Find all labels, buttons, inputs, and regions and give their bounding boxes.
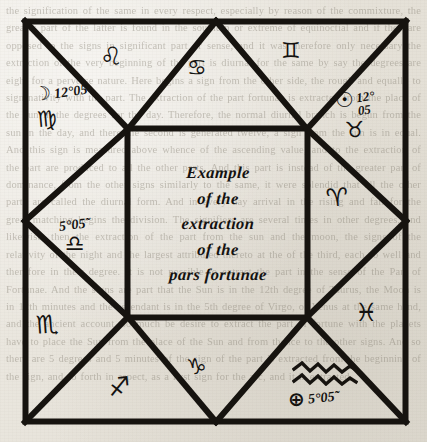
moon-sign-virgo: ♍ [36,105,88,131]
ascendant-degree-value: 5°05˜ [58,216,91,234]
sun-degree-row: ☉ 12° 05 [335,90,375,117]
center-inscription: Example of the extraction of the pars fo… [131,160,305,288]
moon-degree-value: 12°05 [53,83,88,102]
inscription-line-5: pars fortunae [130,262,305,288]
inscription-line-4: of the [130,237,305,263]
sign-label-capricorn: ♑ [186,355,209,380]
pars-fortunae-degree-row: ⊕ 5°05˜ [288,389,358,409]
moon-icon: ☽ [33,83,53,104]
inscription-line-3: extraction [130,211,305,237]
inscription-line-1: Example [130,160,305,186]
sign-label-aries: ♈ [325,184,350,211]
sign-label-gemini: ♊ [281,40,301,62]
sun-sign-taurus: ♉ [344,117,375,141]
sign-label-cancer: ♋ [187,57,207,79]
placement-moon-virgo: ☽ 12°05 ♍ [34,84,88,129]
sign-label-leo: ♌ [99,43,123,70]
pars-fortunae-icon: ⊕ [288,389,305,409]
ray-right-to-inner-top [307,129,406,221]
ascendant-sign-libra: ♎ [59,233,90,255]
aquarius-icon [292,361,358,386]
sign-label-pisces: ♓ [355,300,377,325]
aquarius-sign-wave [292,361,358,386]
moon-degree-row: ☽ 12°05 [34,84,88,103]
ray-left-to-inner-top [25,129,128,221]
pars-fortunae-degree-value: 5°05˜ [307,389,340,406]
placement-parsfortunae-aquarius: ⊕ 5°05˜ [292,361,358,409]
sign-label-scorpio: ♏ [35,311,59,338]
placement-ascendant-libra: 5°05˜ ♎ [59,218,90,255]
square-horoscope-figure: Example of the extraction of the pars fo… [0,0,427,442]
sign-label-sagittarius: ♐ [107,373,132,400]
sun-degree-stack: 12° 05 [355,89,376,118]
placement-sun-taurus: ☉ 12° 05 ♉ [335,90,375,141]
sun-degree-line-2: 05 [357,102,377,117]
inscription-line-2: of the [130,186,305,212]
sun-icon: ☉ [335,90,354,111]
